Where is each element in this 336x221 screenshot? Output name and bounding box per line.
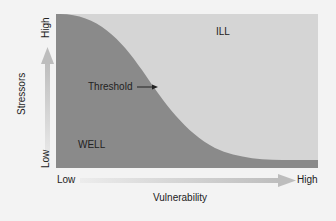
y-axis-high-label: High (40, 17, 51, 38)
well-label: WELL (78, 139, 105, 150)
y-axis-low-label: Low (40, 150, 51, 168)
x-axis-high-label: High (297, 174, 318, 185)
x-axis-arrow-icon (80, 174, 296, 187)
y-axis-arrow-icon (41, 47, 54, 164)
threshold-label: Threshold (88, 81, 132, 92)
ill-label: ILL (216, 26, 230, 37)
x-axis-title: Vulnerability (153, 192, 207, 203)
x-axis-low-label: Low (57, 174, 75, 185)
y-axis-title: Stressors (16, 73, 27, 115)
